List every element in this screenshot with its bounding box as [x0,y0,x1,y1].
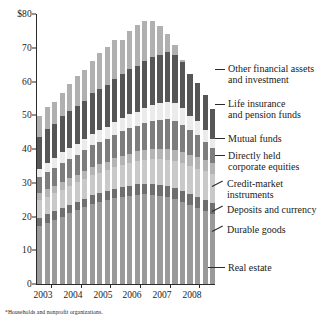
x-axis-tick-label: 2003 [34,290,53,300]
bar-segment [127,196,132,284]
bar-segment [150,149,155,159]
x-axis-tick-mark [110,284,111,288]
bar-segment [97,173,102,194]
x-axis-tick-mark [199,284,200,288]
bar-segment [82,171,87,179]
x-axis-line [36,284,215,285]
bar-segment [67,178,72,186]
bar-segment [157,55,162,104]
bar-segment [105,191,110,200]
callout-label-durable-goods: Durable goods [227,224,286,235]
bar-segment [165,102,170,120]
bar-segment [127,163,132,186]
bar-segment [75,144,80,155]
bar-group [36,14,216,284]
bar-segment [157,159,162,185]
bar-segment [45,172,50,189]
callout-leader-line-directly-held-equities [215,155,225,156]
bar-segment [180,202,185,284]
bar-segment [105,170,110,191]
bar-segment [75,155,80,175]
callout-label-real-estate: Real estate [228,262,272,273]
bar-segment [90,195,95,204]
bar-segment [127,128,132,153]
bar-segment [37,218,42,226]
bar-segment [45,197,50,215]
bar-segment [97,53,102,89]
bar-segment [142,108,147,123]
bar [60,14,65,284]
bar-segment [82,139,87,150]
bar-segment [135,151,140,160]
callout-label-other-financial-assets: Other financial assets and investment [228,63,314,85]
bar-segment [120,118,125,132]
bar-segment [90,134,95,146]
bar-segment [105,85,110,127]
bar-segment [210,174,215,203]
bar-segment [52,193,57,211]
bar-segment [60,93,65,116]
x-axis-tick-label: 2006 [123,290,142,300]
bar-segment [180,191,185,202]
bar-segment [165,34,170,53]
callout-deposits-currency: Deposits and currency [227,204,316,215]
bar-segment [75,182,80,201]
bar-segment [150,21,155,56]
bar-segment [112,122,117,135]
bar-segment [67,159,72,179]
bar-segment [195,208,200,284]
bar [37,14,42,284]
bar [210,14,215,284]
x-axis-tick-mark [170,284,171,288]
bar-segment [105,139,110,161]
bar-segment [180,125,185,152]
bar-segment [157,120,162,149]
bar-segment [165,149,170,160]
bar-segment [82,101,87,139]
bar-segment [52,186,57,193]
bar-segment [97,130,102,142]
bar-segment [45,107,50,129]
bar-segment [120,74,125,118]
bar-segment [52,220,57,284]
bar-segment [82,179,87,199]
bar-segment [67,84,72,111]
bar-segment [150,105,155,121]
bar-segment [120,131,125,155]
bar-segment [97,89,102,130]
bar-segment [82,199,87,208]
bar [97,14,102,284]
bar-segment [157,185,162,195]
callout-credit-market: Credit-market instruments [227,178,283,200]
bar-segment [37,116,42,137]
bar-segment [45,214,50,222]
bar-segment [127,154,132,163]
bar-segment [52,211,57,219]
bar-segment [187,194,192,205]
bar-segment [210,163,215,174]
bar-segment [203,160,208,171]
bar-segment [90,175,95,195]
bar-segment [172,199,177,284]
x-axis-tick-mark [140,284,141,288]
bar-segment [187,130,192,154]
bar-segment [165,197,170,284]
bar-segment [45,223,50,284]
bar-segment [37,200,42,218]
bar-segment [112,135,117,158]
stacked-bar-chart: 010203040506070$80 200320042005200620072… [0,0,335,325]
bar-segment [90,204,95,284]
bar-segment [165,119,170,149]
bar-segment [90,93,95,133]
callout-durable-goods: Durable goods [227,224,286,235]
x-axis-tick-label: 2005 [94,290,113,300]
bar-segment [60,208,65,216]
bar-segment [210,139,215,148]
bar-segment [142,184,147,194]
bar-segment [150,184,155,194]
callout-label-deposits-currency: Deposits and currency [227,204,316,215]
bar-segment [67,205,72,213]
bar [135,14,140,284]
bar-segment [112,158,117,167]
bar-segment [97,164,102,172]
